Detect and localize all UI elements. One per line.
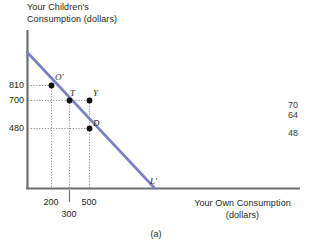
- point-label-O-prime: O': [55, 72, 63, 82]
- budget-line-label: L': [150, 176, 157, 186]
- point-label-Y: Y: [93, 88, 98, 98]
- side-number-2: 64: [288, 110, 298, 120]
- point-label-D: D: [93, 118, 100, 128]
- y-axis-title: Your Children's Consumption (dollars): [27, 2, 117, 25]
- y-axis-title-line2: Consumption (dollars): [27, 14, 117, 26]
- data-point-D: [87, 126, 93, 132]
- panel-label: (a): [141, 229, 171, 239]
- data-point-T: [67, 98, 73, 104]
- side-number-1: 70: [288, 100, 298, 110]
- data-point-O-prime: [49, 83, 55, 89]
- x-axis-title-line2: (dollars): [185, 210, 300, 222]
- x-axis-title-line1: Your Own Consumption: [185, 198, 300, 210]
- data-point-Y: [87, 98, 93, 104]
- x-tick-label-200: 200: [38, 197, 64, 207]
- point-label-T: T: [70, 88, 75, 98]
- x-tick-label-500: 500: [76, 197, 102, 207]
- budget-line-figure: Your Children's Consumption (dollars) Yo…: [0, 0, 311, 248]
- y-axis-title-line1: Your Children's: [27, 2, 117, 14]
- side-number-3: 48: [288, 128, 298, 138]
- x-tick-label-300: 300: [56, 209, 82, 219]
- budget-line-Lprime: [27, 52, 155, 189]
- y-tick-label-700: 700: [0, 95, 24, 105]
- y-tick-label-480: 480: [0, 123, 24, 133]
- x-axis-title: Your Own Consumption (dollars): [185, 198, 300, 221]
- y-tick-label-810: 810: [0, 80, 24, 90]
